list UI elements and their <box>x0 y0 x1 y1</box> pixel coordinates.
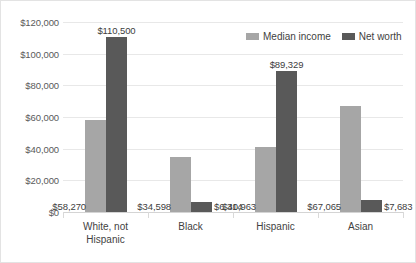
y-axis-tick-label: $40,000 <box>0 143 59 154</box>
bar-chart: Median income Net worth $0$20,000$40,000… <box>0 0 416 263</box>
bar-value-label: $110,500 <box>97 25 135 36</box>
x-axis-category-label: White, notHispanic <box>58 220 154 246</box>
bar-net-worth: $110,500 <box>106 37 127 212</box>
bar-value-label: $67,065 <box>307 201 341 212</box>
x-axis-tick <box>318 212 319 218</box>
y-axis-tick-label: $120,000 <box>0 17 59 28</box>
bar-group: $34,598$6,314 <box>148 22 233 212</box>
category-label-line: Hispanic <box>58 233 154 246</box>
bar-net-worth: $89,329 <box>276 71 297 212</box>
category-label-line: White, not <box>58 220 154 233</box>
bar-value-label: $7,683 <box>384 201 412 212</box>
y-axis-tick-label: $100,000 <box>0 48 59 59</box>
y-axis-tick-label: $60,000 <box>0 112 59 123</box>
x-axis-category-label: Asian <box>313 220 409 233</box>
y-axis-tick-label: $80,000 <box>0 80 59 91</box>
bar-median-income: $34,598 <box>170 157 191 212</box>
bar-value-label: $58,270 <box>52 201 86 212</box>
bar-group: $58,270$110,500 <box>63 22 148 212</box>
x-axis-category-label: Black <box>143 220 239 233</box>
x-axis-tick <box>403 212 404 218</box>
bar-net-worth: $6,314 <box>191 202 212 212</box>
category-label-line: Asian <box>313 220 409 233</box>
bar-value-label: $40,963 <box>222 201 256 212</box>
bar-net-worth: $7,683 <box>361 200 382 212</box>
x-axis-tick <box>233 212 234 218</box>
category-label-line: Hispanic <box>228 220 324 233</box>
x-axis-category-label: Hispanic <box>228 220 324 233</box>
bar-median-income: $67,065 <box>340 106 361 212</box>
x-axis-tick <box>148 212 149 218</box>
plot-area: $58,270$110,500$34,598$6,314$40,963$89,3… <box>63 22 403 212</box>
bar-value-label: $34,598 <box>137 201 171 212</box>
bar-group: $40,963$89,329 <box>233 22 318 212</box>
y-axis-tick-label: $0 <box>0 207 59 218</box>
bar-value-label: $89,329 <box>270 59 304 70</box>
bar-median-income: $40,963 <box>255 147 276 212</box>
bar-group: $67,065$7,683 <box>318 22 403 212</box>
y-axis-tick-label: $20,000 <box>0 175 59 186</box>
x-axis-tick <box>63 212 64 218</box>
category-label-line: Black <box>143 220 239 233</box>
bar-median-income: $58,270 <box>85 120 106 212</box>
